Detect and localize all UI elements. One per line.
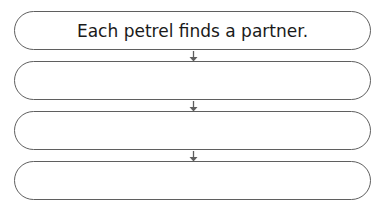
flow-box-1: Each petrel finds a partner. bbox=[14, 11, 371, 50]
flow-box-2[interactable] bbox=[14, 61, 371, 100]
flow-box-3[interactable] bbox=[14, 111, 371, 150]
flow-box-4[interactable] bbox=[14, 161, 371, 200]
flow-box-1-text: Each petrel finds a partner. bbox=[77, 21, 308, 41]
